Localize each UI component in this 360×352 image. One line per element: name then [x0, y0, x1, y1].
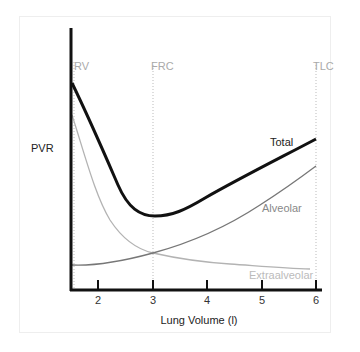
- total-curve: [72, 83, 316, 216]
- x-tick-label-5: 5: [259, 294, 265, 306]
- total-label: Total: [270, 136, 293, 148]
- x-tick-label-3: 3: [150, 294, 156, 306]
- x-tick-label-6: 6: [313, 294, 319, 306]
- x-tick-label-4: 4: [204, 294, 210, 306]
- rv-label: RV: [74, 60, 90, 72]
- x-tick-label-2: 2: [95, 294, 101, 306]
- pvr-chart: 2 3 4 5 6 Lung Volume (l) PVR RV FRC TLC…: [0, 0, 360, 352]
- tlc-label: TLC: [313, 60, 334, 72]
- alveolar-label: Alveolar: [262, 202, 302, 214]
- alveolar-curve: [72, 166, 316, 265]
- frc-label: FRC: [151, 60, 174, 72]
- x-axis-label: Lung Volume (l): [160, 314, 237, 326]
- y-axis-label: PVR: [31, 142, 54, 154]
- extraalveolar-label: Extraalveolar: [249, 269, 314, 281]
